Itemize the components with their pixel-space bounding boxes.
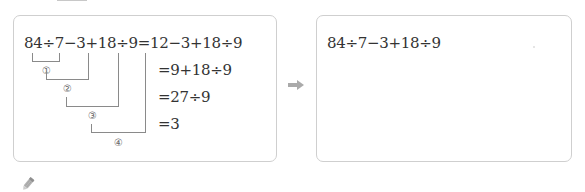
pencil-icon (20, 176, 36, 192)
problem-expression: 84÷7−3+18÷9 (327, 34, 441, 52)
bracket-4 (91, 53, 146, 133)
worked-example-box: 84÷7−3+18÷9=12−3+18÷9 =9+18÷9 =27÷9 =3 ①… (13, 15, 277, 162)
stray-dot (533, 46, 535, 48)
calculation-step-2: =27÷9 (158, 88, 210, 106)
bracket-3-left (66, 97, 67, 107)
calculation-step-3: =3 (158, 115, 180, 133)
calculation-step-1: =9+18÷9 (158, 61, 232, 79)
expression-first-line: 84÷7−3+18÷9=12−3+18÷9 (24, 34, 242, 52)
order-label-4: ④ (112, 137, 125, 150)
top-rule-divider (57, 0, 87, 1)
bracket-4-left (91, 124, 92, 133)
bracket-2-left (46, 71, 47, 80)
answer-box[interactable]: 84÷7−3+18÷9 (316, 15, 572, 162)
right-arrow-icon (288, 80, 304, 90)
